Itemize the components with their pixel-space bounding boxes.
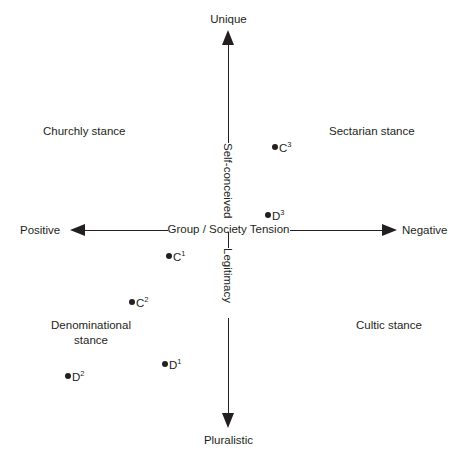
data-point-superscript: 3: [280, 208, 284, 217]
data-point-superscript: 2: [144, 295, 148, 304]
data-point-superscript: 2: [80, 369, 84, 378]
vertical-axis-upper-segment: [228, 45, 229, 143]
quadrant-label-bottom-left-line2: stance: [36, 333, 146, 348]
arrow-up-icon: [222, 30, 234, 45]
vertical-axis-lower-label: Legitimacy: [222, 248, 234, 303]
quadrant-label-top-right: Sectarian stance: [329, 124, 415, 139]
data-point-label: C1: [173, 251, 185, 263]
data-point-c2: C2: [129, 296, 148, 309]
data-point-marker-icon: [65, 373, 71, 379]
data-point-marker-icon: [265, 212, 271, 218]
data-point-superscript: 1: [177, 357, 181, 366]
data-point-label: D1: [169, 359, 181, 371]
data-point-label: D3: [272, 210, 284, 222]
data-point-c1: C1: [166, 250, 185, 263]
data-point-d3: D3: [265, 209, 284, 222]
data-point-marker-icon: [162, 361, 168, 367]
data-point-marker-icon: [272, 144, 278, 150]
quadrant-label-bottom-left-line1: Denominational: [36, 318, 146, 333]
quadrant-diagram: Unique Pluralistic Positive Negative Gro…: [0, 0, 457, 456]
pole-label-bottom: Pluralistic: [0, 433, 457, 447]
vertical-axis-upper-label: Self-conceived: [222, 143, 234, 218]
data-point-superscript: 1: [181, 249, 185, 258]
quadrant-label-bottom-right: Cultic stance: [356, 318, 422, 333]
data-point-d2: D2: [65, 370, 84, 383]
horizontal-axis-label: Group / Society Tension: [0, 223, 457, 235]
data-point-label: C3: [279, 142, 291, 154]
data-point-label: D2: [72, 371, 84, 383]
data-point-c3: C3: [272, 141, 291, 154]
data-point-marker-icon: [129, 299, 135, 305]
arrow-down-icon: [222, 413, 234, 428]
data-point-label: C2: [136, 297, 148, 309]
vertical-axis-lower-segment: [228, 318, 229, 413]
data-point-superscript: 3: [287, 140, 291, 149]
data-point-marker-icon: [166, 253, 172, 259]
quadrant-label-top-left: Churchly stance: [43, 124, 125, 139]
pole-label-top: Unique: [0, 12, 457, 26]
data-point-d1: D1: [162, 358, 181, 371]
quadrant-label-bottom-left: Denominational stance: [36, 318, 146, 348]
